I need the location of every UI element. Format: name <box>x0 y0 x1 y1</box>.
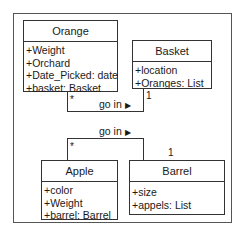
multiplicity-one: 1 <box>168 148 174 158</box>
class-attributes: +size +appels: List <box>130 182 224 212</box>
multiplicity-one: 1 <box>146 91 152 101</box>
class-name: Basket <box>133 41 211 62</box>
association-line <box>143 138 144 160</box>
association-line <box>67 138 68 160</box>
attribute: +Orchard <box>26 57 115 70</box>
attribute: +Date_Picked: date <box>26 69 115 82</box>
class-attributes: +location +Oranges: List <box>133 62 211 90</box>
attribute: +location <box>135 64 209 77</box>
class-name: Barrel <box>130 161 224 182</box>
attribute: +barrel: Barrel <box>44 209 115 222</box>
attribute: +size <box>132 186 222 199</box>
direction-arrow-icon: ▶ <box>125 128 131 137</box>
attribute: +color <box>44 184 115 197</box>
class-barrel[interactable]: Barrel +size +appels: List <box>129 160 225 215</box>
class-basket[interactable]: Basket +location +Oranges: List <box>132 40 212 89</box>
class-attributes: +color +Weight +barrel: Barrel <box>42 182 117 223</box>
association-line <box>143 89 144 112</box>
association-line <box>67 138 144 139</box>
attribute: +Oranges: List <box>135 77 209 90</box>
attribute: +basket: Basket <box>26 82 115 95</box>
direction-arrow-icon: ▶ <box>125 101 131 110</box>
class-name: Orange <box>24 21 117 42</box>
association-label: go in ▶ <box>99 98 131 112</box>
class-attributes: +Weight +Orchard +Date_Picked: date +bas… <box>24 42 117 95</box>
multiplicity-many: * <box>70 95 74 105</box>
multiplicity-many: * <box>70 142 74 152</box>
association-label: go in ▶ <box>99 125 131 139</box>
attribute: +appels: List <box>132 199 222 212</box>
attribute: +Weight <box>26 44 115 57</box>
class-name: Apple <box>42 161 117 182</box>
class-apple[interactable]: Apple +color +Weight +barrel: Barrel <box>41 160 118 220</box>
association-line <box>67 92 68 111</box>
class-orange[interactable]: Orange +Weight +Orchard +Date_Picked: da… <box>23 20 118 92</box>
attribute: +Weight <box>44 197 115 210</box>
